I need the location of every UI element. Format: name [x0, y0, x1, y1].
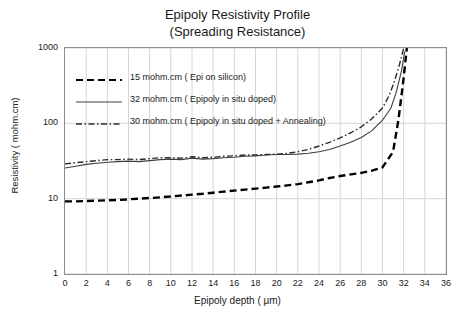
legend-label-2: 30 mohm.cm ( Epipoly in situ doped + Ann… [130, 116, 326, 126]
x-tick-label: 0 [55, 278, 75, 288]
chart-subtitle: (Spreading Resistance) [0, 23, 475, 40]
x-tick-label: 26 [330, 278, 350, 288]
y-tick-label: 100 [28, 117, 58, 127]
y-tick-label: 1000 [28, 42, 58, 52]
chart-container: Epipoly Resistivity Profile (Spreading R… [0, 0, 475, 321]
x-tick-label: 10 [161, 278, 181, 288]
x-tick-label: 32 [394, 278, 414, 288]
x-tick-label: 24 [309, 278, 329, 288]
chart-title-line1: Epipoly Resistivity Profile [165, 7, 310, 22]
y-tick-label: 1 [28, 268, 58, 278]
legend-swatch-dashdot [76, 120, 122, 128]
x-tick-label: 4 [97, 278, 117, 288]
y-axis-title: Resistivity ( mohm.cm) [9, 81, 20, 211]
legend-item: 15 mohm.cm ( Epi on silicon) [76, 70, 356, 92]
legend-item: 32 mohm.cm ( Epipoly in situ doped) [76, 92, 356, 114]
chart-title: Epipoly Resistivity Profile (Spreading R… [0, 6, 475, 40]
x-tick-label: 28 [351, 278, 371, 288]
x-axis-title: Epipoly depth ( μm) [0, 295, 475, 306]
x-tick-label: 20 [267, 278, 287, 288]
legend-swatch-dashed [76, 76, 122, 84]
legend-swatch-solid [76, 98, 122, 106]
legend-label-1: 32 mohm.cm ( Epipoly in situ doped) [130, 94, 276, 104]
x-tick-label: 6 [119, 278, 139, 288]
legend-label-0: 15 mohm.cm ( Epi on silicon) [130, 72, 246, 82]
x-tick-label: 12 [182, 278, 202, 288]
x-tick-label: 8 [140, 278, 160, 288]
x-tick-label: 34 [415, 278, 435, 288]
x-tick-label: 22 [288, 278, 308, 288]
x-tick-label: 36 [436, 278, 456, 288]
x-tick-label: 18 [246, 278, 266, 288]
y-tick-label: 10 [28, 193, 58, 203]
chart-legend: 15 mohm.cm ( Epi on silicon) 32 mohm.cm … [76, 70, 356, 136]
x-tick-label: 16 [224, 278, 244, 288]
legend-item: 30 mohm.cm ( Epipoly in situ doped + Ann… [76, 114, 356, 136]
x-tick-label: 30 [373, 278, 393, 288]
x-tick-label: 2 [76, 278, 96, 288]
x-tick-label: 14 [203, 278, 223, 288]
